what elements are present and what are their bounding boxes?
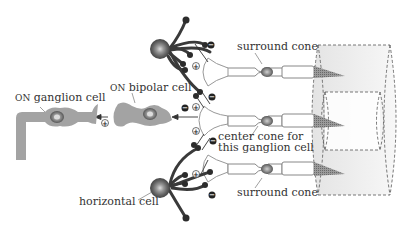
label-on-bipolar-cell: ON bipolar cell	[110, 81, 192, 94]
minus-sign: −	[210, 137, 217, 145]
svg-text:−: −	[182, 104, 188, 112]
svg-text:+: +	[102, 120, 108, 128]
svg-text:+: +	[193, 104, 199, 112]
minus-sign: −	[209, 191, 216, 199]
plus-sign: +	[102, 120, 109, 128]
plus-sign: +	[193, 104, 200, 112]
minus-sign: −	[182, 104, 189, 112]
minus-sign: −	[208, 41, 215, 49]
plus-sign: +	[193, 128, 200, 136]
plus-sign: +	[193, 63, 200, 71]
minus-sign: −	[209, 93, 216, 101]
plus-sign: +	[193, 171, 200, 179]
svg-text:−: −	[209, 191, 215, 199]
svg-text:+: +	[193, 63, 199, 71]
svg-text:+: +	[193, 128, 199, 136]
on-ganglion-cell	[16, 104, 98, 160]
svg-text:−: −	[209, 93, 215, 101]
label-surround-cone-bottom: surround cone	[237, 186, 318, 199]
label-surround-cone-top: surround cone	[237, 40, 318, 53]
svg-text:−: −	[210, 137, 216, 145]
svg-text:−: −	[208, 41, 214, 49]
retina-circuit-diagram: + − − + − + + − + − surround cone center…	[0, 0, 413, 235]
horizontal-cell-bottom	[150, 142, 213, 222]
label-horizontal-cell: horizontal cell	[79, 195, 159, 208]
label-center-cone-line2: this ganglion cell	[218, 141, 314, 154]
label-on-ganglion-cell: ON ganglion cell	[15, 91, 106, 104]
on-bipolar-cell	[114, 102, 173, 126]
svg-text:+: +	[193, 171, 199, 179]
